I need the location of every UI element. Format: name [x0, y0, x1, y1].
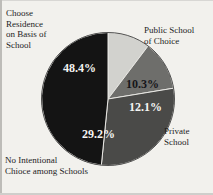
- category-label-line: No Intentional: [5, 155, 88, 166]
- category-label-line: School: [6, 40, 47, 51]
- pie-chart-svg: [41, 32, 175, 166]
- category-label-line: of Choice: [144, 36, 194, 47]
- slice-value-no-intentional-choice: 29.2%: [82, 128, 115, 140]
- category-label-public-school-of-choice: Public School of Choice: [144, 25, 194, 46]
- page-edge-bottom: [0, 193, 213, 195]
- category-label-choose-residence: Choose Residence on Basis of School: [6, 8, 47, 50]
- slice-value-choose-residence: 48.4%: [63, 62, 96, 74]
- category-label-line: School: [164, 137, 190, 148]
- pie-chart-figure: 48.4% 10.3% 12.1% 29.2% Choose Residence…: [0, 0, 213, 195]
- slice-value-public-school-of-choice: 10.3%: [126, 78, 159, 90]
- slice-value-private-school: 12.1%: [129, 101, 162, 113]
- category-label-private-school: Private School: [164, 126, 190, 147]
- page-edge-top: [0, 0, 213, 1]
- pie-slice: [42, 33, 108, 166]
- category-label-line: on Basis of: [6, 29, 47, 40]
- category-label-line: Chioce among Schools: [5, 166, 88, 177]
- category-label-line: Private: [164, 126, 190, 137]
- category-label-line: Public School: [144, 25, 194, 36]
- category-label-no-intentional-choice: No Intentional Chioce among Schools: [5, 155, 88, 176]
- pie-chart: [41, 32, 175, 166]
- category-label-line: Residence: [6, 19, 47, 30]
- category-label-line: Choose: [6, 8, 47, 19]
- page-edge-left: [0, 0, 2, 195]
